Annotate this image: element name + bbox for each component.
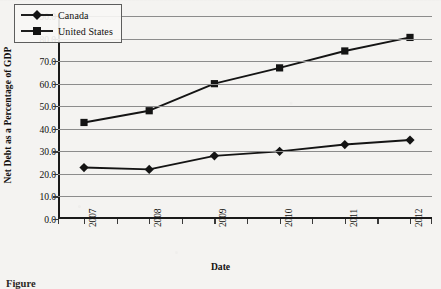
data-point-united-states [276, 64, 283, 71]
legend-label-canada: Canada [58, 10, 89, 21]
chart-legend: Canada United States [14, 4, 122, 43]
square-marker-icon [20, 24, 54, 38]
x-tick-mark-minor [377, 219, 378, 224]
x-tick-mark [410, 219, 411, 224]
legend-item-canada: Canada [20, 7, 113, 23]
data-point-united-states [341, 47, 348, 54]
x-tick-mark-minor [312, 219, 313, 224]
data-point-united-states [406, 34, 413, 41]
series-layer [58, 16, 432, 219]
gridline [58, 196, 432, 197]
x-tick-mark [149, 219, 150, 224]
x-tick-mark-minor [431, 219, 432, 224]
data-point-canada [340, 140, 349, 149]
y-tick-mark [53, 174, 58, 175]
x-tick-mark-minor [58, 219, 59, 224]
x-tick-mark [345, 219, 346, 224]
diamond-marker-icon [20, 8, 54, 22]
x-tick-mark-minor [117, 219, 118, 224]
gridline [58, 174, 432, 175]
x-tick-mark [280, 219, 281, 224]
y-tick-mark [53, 129, 58, 130]
x-tick-mark-minor [182, 219, 183, 224]
y-tick-mark [53, 84, 58, 85]
x-axis-title: Date [0, 261, 441, 272]
legend-label-united-states: United States [58, 26, 113, 37]
gridline [58, 129, 432, 130]
x-tick-mark-minor [247, 219, 248, 224]
x-tick-mark [84, 219, 85, 224]
data-point-united-states [146, 107, 153, 114]
data-point-canada [79, 163, 88, 172]
x-tick-label: 2011 [349, 209, 359, 227]
data-point-canada [405, 135, 414, 144]
data-point-canada [210, 151, 219, 160]
x-tick-label: 2012 [414, 209, 424, 227]
x-tick-mark [214, 219, 215, 224]
x-tick-label: 2009 [218, 209, 228, 227]
y-tick-mark [53, 151, 58, 152]
figure-caption: Figure [6, 278, 436, 289]
series-line-canada [84, 140, 410, 169]
gridline [58, 61, 432, 62]
legend-item-united-states: United States [20, 23, 113, 39]
gridline [58, 151, 432, 152]
y-tick-mark [53, 106, 58, 107]
data-point-united-states [80, 119, 87, 126]
y-axis-tick-labels: 0.010.020.030.040.050.060.070.080.090.0 [12, 0, 56, 287]
series-line-united-states [84, 37, 410, 122]
gridline [58, 106, 432, 107]
gridline [58, 84, 432, 85]
data-point-canada [145, 165, 154, 174]
y-tick-mark [53, 196, 58, 197]
x-tick-label: 2007 [88, 209, 98, 227]
x-tick-label: 2008 [153, 209, 163, 227]
x-tick-label: 2010 [284, 209, 294, 227]
y-tick-mark [53, 61, 58, 62]
plot-area [58, 16, 432, 219]
